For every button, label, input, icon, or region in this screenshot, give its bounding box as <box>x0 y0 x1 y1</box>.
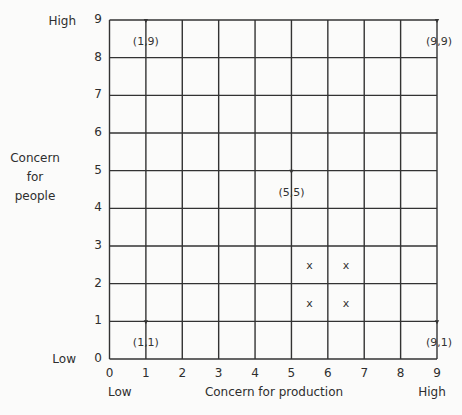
point-label: (1,1) <box>133 337 159 349</box>
x-tick-label: 5 <box>288 366 296 380</box>
y-axis-title: Concern for people <box>10 149 60 206</box>
managerial-grid-chart: High Low Concern for people Low Concern … <box>0 0 462 415</box>
x-axis-low-label: Low <box>108 385 132 399</box>
point-marker-icon <box>144 19 148 23</box>
cell-mark-x-icon: x <box>306 297 313 308</box>
point-marker-icon <box>144 320 148 324</box>
x-tick-label: 3 <box>215 366 223 380</box>
point-marker-icon <box>435 320 439 324</box>
y-axis-title-line-3: people <box>10 187 60 206</box>
y-axis-low-label: Low <box>52 352 76 366</box>
y-tick-label: 7 <box>94 87 102 101</box>
cell-mark-x-icon: x <box>306 259 313 270</box>
y-tick-label: 4 <box>94 200 102 214</box>
y-tick-label: 2 <box>94 276 102 290</box>
x-tick-label: 7 <box>360 366 368 380</box>
x-tick-label: 2 <box>178 366 186 380</box>
cell-mark-x-icon: x <box>343 259 350 270</box>
y-tick-label: 8 <box>94 50 102 64</box>
point-label: (1,9) <box>133 36 159 48</box>
x-tick-label: 1 <box>142 366 150 380</box>
x-tick-label: 4 <box>251 366 259 380</box>
y-tick-label: 6 <box>94 125 102 139</box>
point-marker-icon <box>289 170 293 174</box>
x-axis-high-label: High <box>418 385 446 399</box>
point-label: (9,1) <box>426 337 452 349</box>
x-tick-label: 8 <box>397 366 405 380</box>
y-tick-label: 5 <box>94 163 102 177</box>
y-tick-label: 3 <box>94 238 102 252</box>
y-tick-label: 9 <box>94 12 102 26</box>
y-tick-label: 0 <box>94 351 102 365</box>
y-axis-high-label: High <box>48 14 76 28</box>
y-tick-label: 1 <box>94 313 102 327</box>
x-axis-title: Concern for production <box>205 385 343 399</box>
point-label: (9,9) <box>426 36 452 48</box>
cell-mark-x-icon: x <box>343 297 350 308</box>
x-tick-label: 0 <box>106 366 114 380</box>
point-marker-icon <box>435 19 439 23</box>
point-label: (5,5) <box>278 187 304 199</box>
y-axis-title-line-2: for <box>10 168 60 187</box>
y-axis-title-line-1: Concern <box>10 149 60 168</box>
x-tick-label: 9 <box>433 366 441 380</box>
x-tick-label: 6 <box>324 366 332 380</box>
